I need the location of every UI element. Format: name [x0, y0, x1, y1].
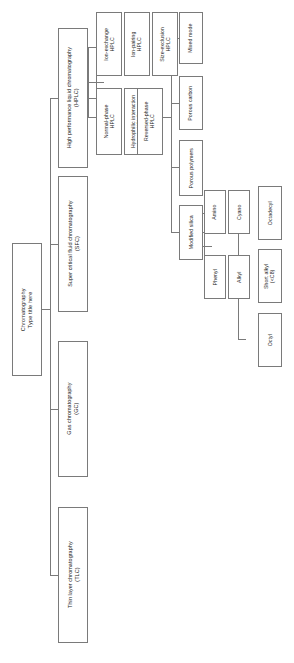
node-modified-silica[interactable]: Modified silica — [179, 205, 203, 260]
node-normal-phase-hplc[interactable]: Normal-phase HPLC — [96, 88, 122, 155]
connector-hplc-modes-left-spine — [88, 47, 89, 118]
connector-rpc-stub — [163, 117, 171, 118]
node-phenyl-label: Phenyl — [212, 269, 218, 285]
connector-mode-rpc — [88, 117, 96, 118]
connector-phase-polymers — [171, 167, 179, 168]
connector-silica-cyano — [204, 246, 212, 247]
node-porous-polymers[interactable]: Porous polymers — [179, 140, 203, 196]
connector-mode-ipc — [96, 82, 104, 83]
node-npc-line2: HPLC — [109, 114, 115, 128]
node-gc-line2: (GC) — [73, 403, 79, 415]
node-gc[interactable]: Gas chromatography (GC) — [58, 341, 88, 477]
node-size-exclusion-hplc[interactable]: Size-exclusion HPLC — [152, 12, 178, 76]
node-iec-line2: HPLC — [109, 37, 115, 51]
node-ipc-line2: HPLC — [137, 37, 143, 51]
node-alkyl-group[interactable]: Alkyl — [228, 255, 250, 299]
node-alkyl-label: Alkyl — [236, 271, 242, 282]
node-shortalkyl-line2: (<C8) — [270, 269, 276, 283]
connector-level1-sfc — [50, 244, 58, 245]
node-reversed-phase[interactable]: Reversed-phase HPLC — [137, 88, 163, 155]
node-sfc-line1: Super critical fluid chromatography — [66, 201, 72, 288]
connector-level1-spine — [50, 98, 51, 575]
connector-root-stub — [42, 309, 50, 310]
node-hplc-line2: (HPLC) — [73, 89, 79, 108]
node-sfc-line2: (SFC) — [73, 237, 79, 252]
node-cyano[interactable]: Cyano — [228, 190, 250, 234]
node-mixed-label: Mixed mode — [188, 23, 194, 52]
node-octadecyl[interactable]: Octadecyl — [258, 186, 282, 240]
node-tlc-line1: Thin layer chromatography — [66, 542, 72, 609]
connector-mode-npc — [88, 47, 96, 48]
node-tlc[interactable]: Thin layer chromatography (TLC) — [58, 507, 88, 643]
node-sfc[interactable]: Super critical fluid chromatography (SFC… — [58, 176, 88, 312]
node-sec-line1: Size-exclusion — [159, 27, 165, 62]
node-root-line2: Type title here — [27, 291, 33, 328]
chromatography-tree-diagram: Chromatography Type title here High perf… — [0, 0, 294, 663]
node-npc-line1: Normal-phase — [103, 105, 109, 139]
node-polymers-label: Porous polymers — [188, 148, 194, 188]
node-ipc-line1: Ion-pairing — [131, 31, 137, 57]
node-hplc[interactable]: High performance liquid chromatography (… — [58, 28, 88, 168]
connector-level1-hplc — [50, 98, 58, 99]
node-root-line1: Chromatography — [20, 288, 26, 331]
connector-phase-carbon — [171, 103, 179, 104]
node-rpc-line2: HPLC — [150, 114, 156, 128]
node-amino-label: Amino — [212, 204, 218, 219]
node-ion-exchange-hplc[interactable]: Ion-exchange HPLC — [96, 12, 122, 76]
node-gc-line1: Gas chromatography — [66, 383, 72, 435]
node-octyl[interactable]: Octyl — [258, 313, 282, 367]
node-cyano-label: Cyano — [236, 204, 242, 220]
node-ion-pairing-hplc[interactable]: Ion-pairing HPLC — [124, 12, 150, 76]
node-carbon-label: Porous carbon — [188, 85, 194, 120]
connector-hplc-stub — [88, 98, 96, 99]
node-amino[interactable]: Amino — [204, 190, 226, 234]
node-root-chromatography[interactable]: Chromatography Type title here — [12, 243, 42, 376]
connector-level1-tlc — [50, 575, 58, 576]
node-tlc-line2: (TLC) — [73, 568, 79, 582]
node-hplc-line1: High performance liquid chromatography — [66, 47, 72, 148]
connector-level1-gc — [50, 409, 58, 410]
node-mixed-mode[interactable]: Mixed mode — [179, 12, 203, 64]
node-sec-line2: HPLC — [165, 37, 171, 51]
node-iec-line1: Ion-exchange — [103, 28, 109, 61]
connector-alkyl-octyl — [238, 339, 246, 340]
connector-mode-hilic — [88, 82, 96, 83]
connector-phase-silica — [171, 232, 179, 233]
node-octadecyl-label: Octadecyl — [267, 201, 273, 225]
node-octyl-label: Octyl — [267, 334, 273, 346]
node-silica-label: Modified silica — [188, 215, 194, 249]
node-phenyl[interactable]: Phenyl — [204, 255, 226, 299]
node-short-alkyl[interactable]: Short alkyl (<C8) — [258, 249, 282, 303]
node-porous-carbon[interactable]: Porous carbon — [179, 76, 203, 130]
